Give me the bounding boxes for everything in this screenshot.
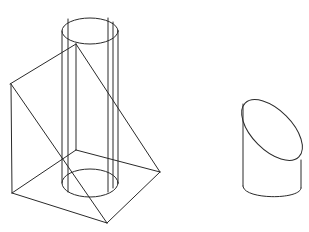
cylinder-top-ellipse [62,18,118,44]
diagram-svg [0,0,309,232]
wedge-ridge [10,44,76,84]
diagram-canvas [0,0,309,232]
wedge-base-front-left [12,193,107,223]
cylinder-wedge-assembly [10,18,160,223]
wedge-front-diagonal [11,84,107,223]
wedge-left-vertical [11,84,12,193]
wedge-prism [10,44,160,223]
wedge-base-front-right [107,172,160,223]
wedge-base-back-left [12,150,76,193]
cylinder-bottom-ellipse [62,169,118,197]
truncated-cylinder [231,89,309,197]
truncated-cylinder-bottom-curve [243,186,301,197]
